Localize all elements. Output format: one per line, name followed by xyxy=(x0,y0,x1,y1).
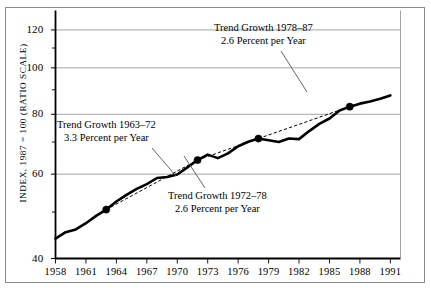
annotation-line-1: Trend Growth 1963–72 xyxy=(57,119,156,132)
x-tick-label: 1961 xyxy=(70,266,102,277)
x-tick-label: 1973 xyxy=(192,266,224,277)
x-tick-label: 1988 xyxy=(344,266,376,277)
y-tick-label: 80 xyxy=(18,107,44,119)
x-tick-label: 1976 xyxy=(222,266,254,277)
y-tick-label: 120 xyxy=(18,23,44,35)
x-tick-label: 1958 xyxy=(40,266,72,277)
x-tick-label: 1967 xyxy=(131,266,163,277)
y-tick-label: 40 xyxy=(18,252,44,264)
annotation-trend-1972-78: Trend Growth 1972–78 2.6 Percent per Yea… xyxy=(168,190,267,215)
x-tick-label: 1985 xyxy=(313,266,345,277)
annotation-line-1: Trend Growth 1972–78 xyxy=(168,190,267,203)
annotation-leader-lines xyxy=(152,51,307,188)
y-tick-label: 100 xyxy=(18,61,44,73)
x-tick-label: 1979 xyxy=(253,266,285,277)
figure-container: INDEX, 1987 = 100 (RATIO SCALE) 40 60 80… xyxy=(0,0,431,290)
annotation-line-1: Trend Growth 1978–87 xyxy=(214,22,313,35)
x-tick-label: 1970 xyxy=(161,266,193,277)
x-tick-label: 1964 xyxy=(100,266,132,277)
annotation-trend-1963-72: Trend Growth 1963–72 3.3 Percent per Yea… xyxy=(57,119,156,144)
annotation-line-2: 3.3 Percent per Year xyxy=(57,132,156,145)
x-tick-label: 1982 xyxy=(283,266,315,277)
annotation-line-2: 2.6 Percent per Year xyxy=(214,35,313,48)
y-tick-label: 60 xyxy=(18,167,44,179)
data-series-line xyxy=(56,95,391,238)
annotation-trend-1978-87: Trend Growth 1978–87 2.6 Percent per Yea… xyxy=(214,22,313,47)
x-tick-label: 1991 xyxy=(374,266,406,277)
annotation-line-2: 2.6 Percent per Year xyxy=(168,203,267,216)
